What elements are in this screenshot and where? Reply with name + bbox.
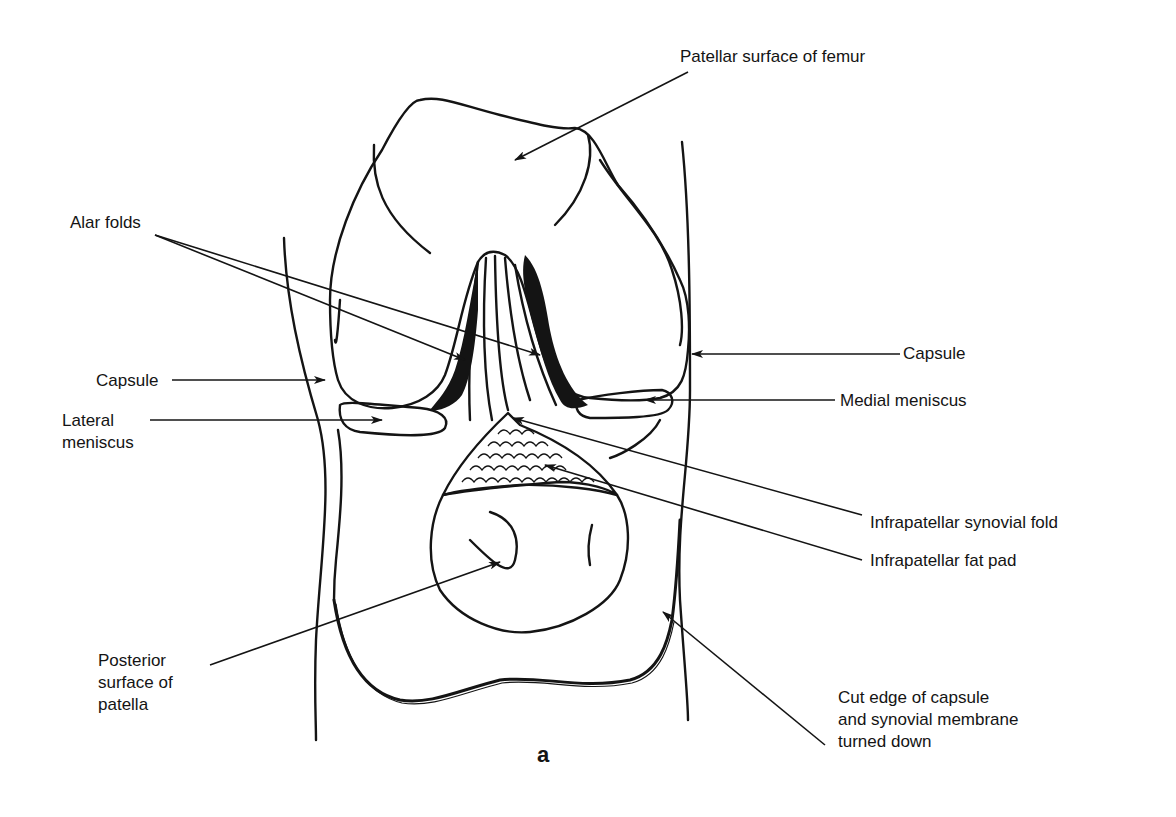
medial-meniscus-outline: [577, 390, 673, 418]
leader-patellar-surface: [515, 72, 688, 160]
label-medial-meniscus: Medial meniscus: [840, 390, 967, 412]
label-alar-folds: Alar folds: [70, 212, 141, 234]
femur-outline: [330, 99, 689, 409]
patella-outline: [431, 485, 628, 632]
label-patellar-surface-of-femur: Patellar surface of femur: [680, 46, 865, 68]
label-capsule-left: Capsule: [96, 370, 158, 392]
label-posterior-surface-of-patella: Posterior surface of patella: [98, 650, 173, 716]
label-infrapatellar-fat-pad: Infrapatellar fat pad: [870, 550, 1016, 572]
leader-posterior-patella: [210, 562, 500, 665]
label-infrapatellar-synovial-fold: Infrapatellar synovial fold: [870, 512, 1058, 534]
leader-alar-folds-1: [155, 235, 465, 360]
label-lateral-meniscus: Lateral meniscus: [62, 410, 134, 454]
label-cut-edge-of-capsule: Cut edge of capsule and synovial membran…: [838, 687, 1018, 753]
left-capsule-line: [284, 238, 325, 740]
figure-caption: a: [537, 742, 549, 768]
alar-fold-right-fill: [523, 255, 588, 408]
leader-alar-folds-2: [155, 235, 540, 355]
leader-fat-pad: [545, 465, 862, 560]
leader-cut-edge: [663, 612, 825, 745]
label-capsule-right: Capsule: [903, 343, 965, 365]
